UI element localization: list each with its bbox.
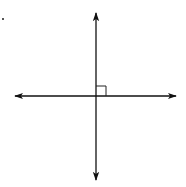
perpendicular-lines-diagram (0, 0, 186, 187)
stray-dot (2, 18, 4, 20)
right-angle-marker (96, 86, 106, 96)
